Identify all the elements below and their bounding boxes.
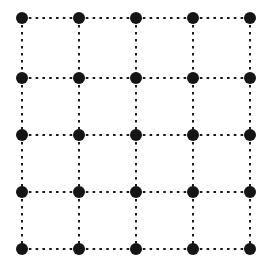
lattice-node	[16, 12, 28, 24]
lattice-node	[73, 72, 85, 84]
lattice-node	[244, 243, 256, 255]
lattice-node	[187, 12, 199, 24]
lattice-node	[16, 243, 28, 255]
lattice-node	[187, 186, 199, 198]
lattice-node	[16, 186, 28, 198]
lattice-node	[73, 243, 85, 255]
lattice-node	[73, 186, 85, 198]
lattice-node	[130, 129, 142, 141]
lattice-node	[244, 12, 256, 24]
lattice-node	[244, 186, 256, 198]
lattice-node	[73, 12, 85, 24]
lattice-node	[16, 72, 28, 84]
lattice-node	[130, 243, 142, 255]
lattice-node	[16, 129, 28, 141]
node-layer	[16, 12, 256, 255]
lattice-node	[73, 129, 85, 141]
lattice-node	[244, 72, 256, 84]
lattice-node	[187, 72, 199, 84]
lattice-node	[244, 129, 256, 141]
lattice-figure	[0, 0, 273, 272]
lattice-node	[130, 72, 142, 84]
lattice-node	[130, 186, 142, 198]
lattice-node	[130, 12, 142, 24]
lattice-canvas	[0, 0, 273, 272]
lattice-node	[187, 243, 199, 255]
lattice-node	[187, 129, 199, 141]
